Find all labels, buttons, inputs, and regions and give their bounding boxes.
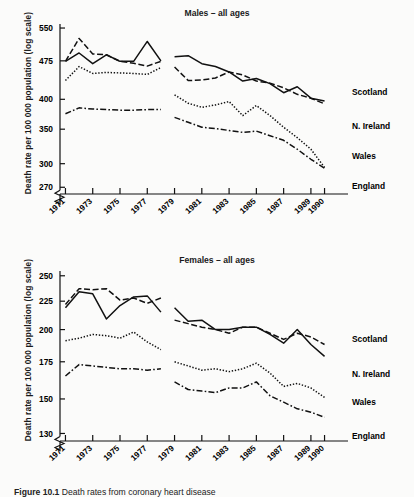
chart-panel-females: Death rate per 100 000 population (log s… bbox=[0, 249, 414, 489]
series-line-wales bbox=[65, 67, 160, 81]
y-axis-tick-label: 400 bbox=[39, 94, 53, 104]
series-label-scotland: Scotland bbox=[352, 334, 387, 344]
x-axis-tick-label: 1981 bbox=[184, 197, 204, 216]
y-axis-tick-label: 130 bbox=[39, 429, 53, 439]
series-line-scotland bbox=[175, 308, 325, 357]
series-label-scotland: Scotland bbox=[352, 87, 387, 97]
figure-container: Death rate per 100 000 population (log s… bbox=[0, 0, 414, 497]
series-line-scotland bbox=[65, 292, 160, 319]
x-axis-tick-label: 1975 bbox=[102, 444, 122, 463]
figure-caption-text: Death rates from coronary heart disease bbox=[62, 487, 216, 497]
plot-area-females: 1301501752002252501971197319751977197919… bbox=[0, 249, 414, 489]
y-axis-tick-label: 475 bbox=[39, 56, 53, 66]
x-axis-tick-label: 1975 bbox=[102, 197, 122, 216]
series-line-wales bbox=[175, 362, 325, 398]
x-axis-tick-label: 1977 bbox=[129, 444, 149, 463]
series-label-wales: Wales bbox=[352, 151, 376, 161]
x-axis-tick-label: 1987 bbox=[265, 444, 285, 463]
x-axis-tick-label: 1973 bbox=[75, 197, 95, 216]
y-axis-tick-label: 150 bbox=[39, 394, 53, 404]
x-axis-tick-label: 1985 bbox=[238, 197, 258, 216]
series-line-england bbox=[65, 365, 160, 376]
y-axis-tick-label: 550 bbox=[39, 23, 53, 33]
series-line-scotland bbox=[65, 41, 160, 63]
plot-area-males: 2703003504004755501971197319751977197919… bbox=[0, 2, 414, 242]
series-line-england bbox=[65, 108, 160, 114]
series-line-england bbox=[175, 382, 325, 417]
x-axis-tick-label: 1973 bbox=[75, 444, 95, 463]
x-axis-tick-label: 1971 bbox=[47, 444, 67, 463]
figure-caption-label: Figure 10.1 bbox=[14, 487, 59, 497]
x-axis-tick-label: 1981 bbox=[184, 444, 204, 463]
chart-panel-males: Death rate per 100 000 population (log s… bbox=[0, 2, 414, 242]
series-label-england: England bbox=[352, 181, 385, 191]
x-axis-tick-label: 1971 bbox=[47, 197, 67, 216]
series-line-wales bbox=[65, 332, 160, 350]
x-axis-tick-label: 1985 bbox=[238, 444, 258, 463]
y-axis-tick-label: 270 bbox=[39, 182, 53, 192]
y-axis-tick-label: 300 bbox=[39, 159, 53, 169]
x-axis-tick-label: 1990 bbox=[306, 444, 326, 463]
figure-caption: Figure 10.1 Death rates from coronary he… bbox=[14, 487, 216, 497]
y-axis-tick-label: 200 bbox=[39, 325, 53, 335]
series-line-n-ireland bbox=[175, 320, 325, 344]
series-line-england bbox=[175, 117, 325, 168]
x-axis-tick-label: 1979 bbox=[156, 444, 176, 463]
series-line-n-ireland bbox=[175, 67, 325, 104]
x-axis-tick-label: 1987 bbox=[265, 197, 285, 216]
x-axis-tick-label: 1990 bbox=[306, 197, 326, 216]
series-label-wales: Wales bbox=[352, 397, 376, 407]
y-axis-tick-label: 175 bbox=[39, 357, 53, 367]
y-axis-tick-label: 250 bbox=[39, 271, 53, 281]
series-label-england: England bbox=[352, 431, 385, 441]
x-axis-tick-label: 1983 bbox=[211, 197, 231, 216]
y-axis-tick-label: 350 bbox=[39, 124, 53, 134]
x-axis-tick-label: 1979 bbox=[156, 197, 176, 216]
x-axis-tick-label: 1977 bbox=[129, 197, 149, 216]
x-axis-tick-label: 1983 bbox=[211, 444, 231, 463]
series-label-n-ireland: N. Ireland bbox=[352, 369, 390, 379]
series-label-n-ireland: N. Ireland bbox=[352, 121, 390, 131]
y-axis-tick-label: 225 bbox=[39, 296, 53, 306]
